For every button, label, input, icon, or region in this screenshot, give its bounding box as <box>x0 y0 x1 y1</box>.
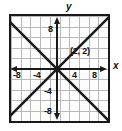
line-positive-slope <box>7 13 113 119</box>
y-tick-label-neg8: -8 <box>44 107 51 116</box>
y-tick-label-neg4: -4 <box>44 87 51 96</box>
x-tick-label-4: 4 <box>72 71 77 80</box>
y-tick-label-8: 8 <box>48 25 53 34</box>
line-negative-slope <box>7 19 113 125</box>
graph-figure: y x -8 -4 4 8 8 -4 -8 (2, 2) <box>0 0 122 131</box>
y-axis-label: y <box>66 2 72 12</box>
plotted-lines-group <box>0 0 122 131</box>
intersection-point-label: (2, 2) <box>70 47 90 56</box>
x-tick-label-neg4: -4 <box>33 71 40 80</box>
x-tick-label-neg8: -8 <box>13 71 20 80</box>
x-axis-label: x <box>113 61 119 71</box>
x-tick-label-8: 8 <box>92 71 97 80</box>
